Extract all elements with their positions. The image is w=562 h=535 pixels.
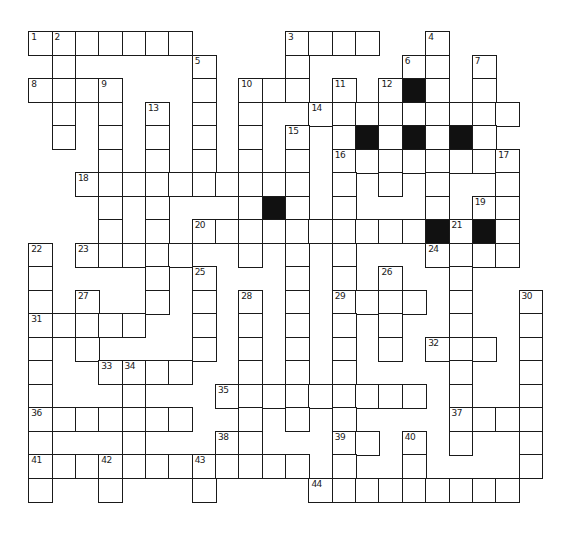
crossword-cell[interactable]: [378, 219, 403, 244]
crossword-cell[interactable]: [332, 407, 357, 432]
crossword-cell[interactable]: [215, 454, 240, 479]
crossword-cell[interactable]: [355, 478, 380, 503]
crossword-cell[interactable]: [262, 78, 287, 103]
crossword-cell[interactable]: [285, 360, 310, 385]
crossword-cell[interactable]: [238, 431, 263, 456]
crossword-cell[interactable]: [145, 243, 170, 268]
crossword-cell[interactable]: [75, 313, 100, 338]
crossword-cell[interactable]: [262, 384, 287, 409]
crossword-cell[interactable]: [378, 313, 403, 338]
crossword-cell[interactable]: 20: [192, 219, 217, 244]
crossword-cell[interactable]: [75, 337, 100, 362]
crossword-cell[interactable]: [192, 102, 217, 127]
crossword-cell[interactable]: [168, 243, 193, 268]
crossword-cell[interactable]: [285, 172, 310, 197]
crossword-cell[interactable]: [192, 313, 217, 338]
crossword-cell[interactable]: [425, 196, 450, 221]
crossword-cell[interactable]: [52, 125, 77, 150]
crossword-cell[interactable]: [495, 407, 520, 432]
crossword-cell[interactable]: [355, 290, 380, 315]
crossword-cell[interactable]: [378, 102, 403, 127]
crossword-cell[interactable]: [378, 125, 403, 150]
crossword-cell[interactable]: 41: [28, 454, 53, 479]
crossword-cell[interactable]: [75, 454, 100, 479]
crossword-cell[interactable]: 1: [28, 31, 53, 56]
crossword-cell[interactable]: [262, 219, 287, 244]
crossword-cell[interactable]: [519, 431, 544, 456]
crossword-cell[interactable]: [145, 149, 170, 174]
crossword-cell[interactable]: [495, 172, 520, 197]
crossword-cell[interactable]: [145, 360, 170, 385]
crossword-cell[interactable]: 38: [215, 431, 240, 456]
crossword-cell[interactable]: 8: [28, 78, 53, 103]
crossword-cell[interactable]: 12: [378, 78, 403, 103]
crossword-cell[interactable]: [98, 31, 123, 56]
crossword-cell[interactable]: [285, 384, 310, 409]
crossword-cell[interactable]: [238, 384, 263, 409]
crossword-cell[interactable]: [332, 313, 357, 338]
crossword-cell[interactable]: [472, 337, 497, 362]
crossword-cell[interactable]: [122, 431, 147, 456]
crossword-cell[interactable]: [332, 196, 357, 221]
crossword-cell[interactable]: [122, 172, 147, 197]
crossword-cell[interactable]: [98, 102, 123, 127]
crossword-cell[interactable]: 13: [145, 102, 170, 127]
crossword-cell[interactable]: [449, 384, 474, 409]
crossword-cell[interactable]: [168, 31, 193, 56]
crossword-cell[interactable]: [285, 454, 310, 479]
crossword-cell[interactable]: [122, 243, 147, 268]
crossword-cell[interactable]: [355, 31, 380, 56]
crossword-cell[interactable]: [192, 172, 217, 197]
crossword-cell[interactable]: [238, 102, 263, 127]
crossword-cell[interactable]: 7: [472, 55, 497, 80]
crossword-cell[interactable]: [238, 360, 263, 385]
crossword-cell[interactable]: [98, 149, 123, 174]
crossword-cell[interactable]: [495, 478, 520, 503]
crossword-cell[interactable]: [472, 102, 497, 127]
crossword-cell[interactable]: [332, 31, 357, 56]
crossword-cell[interactable]: 3: [285, 31, 310, 56]
crossword-cell[interactable]: [192, 78, 217, 103]
crossword-cell[interactable]: [145, 454, 170, 479]
crossword-cell[interactable]: [285, 337, 310, 362]
crossword-cell[interactable]: [52, 55, 77, 80]
crossword-cell[interactable]: [332, 454, 357, 479]
crossword-cell[interactable]: 44: [308, 478, 333, 503]
crossword-cell[interactable]: [262, 172, 287, 197]
crossword-cell[interactable]: [472, 243, 497, 268]
crossword-cell[interactable]: [402, 219, 427, 244]
crossword-cell[interactable]: [98, 243, 123, 268]
crossword-cell[interactable]: 19: [472, 196, 497, 221]
crossword-cell[interactable]: [145, 172, 170, 197]
crossword-cell[interactable]: [98, 125, 123, 150]
crossword-cell[interactable]: [308, 384, 333, 409]
crossword-cell[interactable]: 10: [238, 78, 263, 103]
crossword-cell[interactable]: [285, 407, 310, 432]
crossword-cell[interactable]: [332, 219, 357, 244]
crossword-cell[interactable]: [238, 407, 263, 432]
crossword-cell[interactable]: [472, 149, 497, 174]
crossword-cell[interactable]: [98, 172, 123, 197]
crossword-cell[interactable]: [425, 149, 450, 174]
crossword-cell[interactable]: [238, 196, 263, 221]
crossword-cell[interactable]: [449, 313, 474, 338]
crossword-cell[interactable]: [472, 78, 497, 103]
crossword-cell[interactable]: [285, 313, 310, 338]
crossword-cell[interactable]: [98, 313, 123, 338]
crossword-cell[interactable]: [192, 125, 217, 150]
crossword-cell[interactable]: [28, 431, 53, 456]
crossword-cell[interactable]: [519, 337, 544, 362]
crossword-cell[interactable]: [75, 31, 100, 56]
crossword-cell[interactable]: [449, 431, 474, 456]
crossword-cell[interactable]: 17: [495, 149, 520, 174]
crossword-cell[interactable]: [332, 337, 357, 362]
crossword-cell[interactable]: [402, 290, 427, 315]
crossword-cell[interactable]: [519, 360, 544, 385]
crossword-cell[interactable]: 30: [519, 290, 544, 315]
crossword-cell[interactable]: [472, 407, 497, 432]
crossword-cell[interactable]: [402, 454, 427, 479]
crossword-cell[interactable]: [495, 196, 520, 221]
crossword-cell[interactable]: [28, 478, 53, 503]
crossword-cell[interactable]: [238, 313, 263, 338]
crossword-cell[interactable]: [425, 102, 450, 127]
